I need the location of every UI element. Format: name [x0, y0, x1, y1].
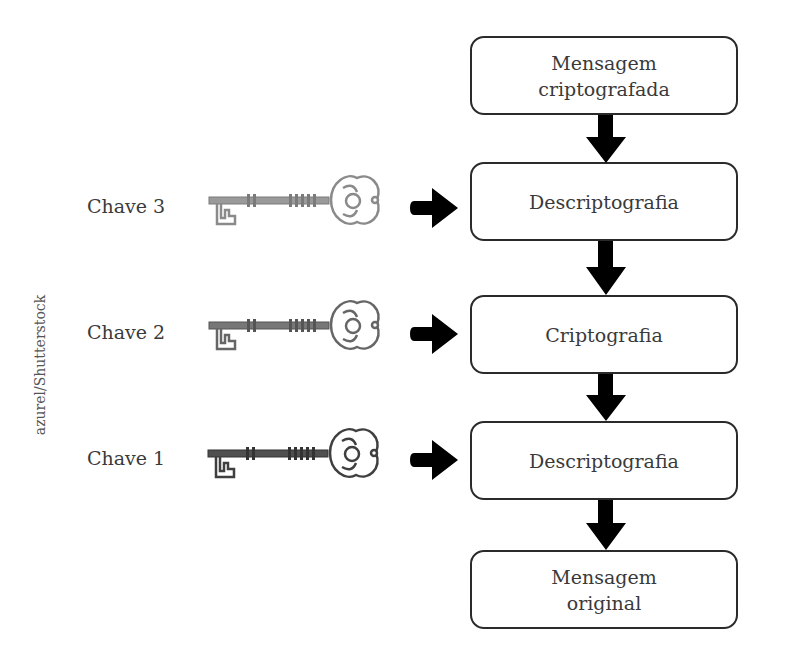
arrow-down-icon — [585, 500, 627, 550]
box-decryption-2: Descriptografia — [470, 421, 738, 500]
arrow-down-icon — [585, 374, 627, 421]
box-original-message: Mensagem original — [470, 550, 738, 629]
arrow-right-icon — [410, 313, 458, 355]
image-credit: azurel/Shutterstock — [32, 295, 48, 435]
box-label: Criptografia — [545, 322, 663, 348]
box-label: Descriptografia — [529, 448, 679, 474]
box-encrypted-message: Mensagem criptografada — [470, 36, 738, 115]
key-label-3: Chave 3 — [87, 195, 165, 217]
arrow-right-icon — [410, 187, 458, 229]
arrow-right-icon — [410, 439, 458, 481]
box-label: Mensagem criptografada — [538, 50, 669, 102]
key-icon-1 — [206, 420, 382, 492]
box-label: Descriptografia — [529, 189, 679, 215]
key-label-1: Chave 1 — [87, 447, 165, 469]
arrow-down-icon — [585, 241, 627, 295]
arrow-down-icon — [585, 115, 627, 163]
box-encryption: Criptografia — [470, 295, 738, 374]
key-icon-3 — [207, 168, 383, 240]
key-label-2: Chave 2 — [87, 321, 165, 343]
box-decryption-1: Descriptografia — [470, 162, 738, 241]
key-icon-2 — [207, 293, 383, 365]
box-label: Mensagem original — [551, 564, 656, 616]
